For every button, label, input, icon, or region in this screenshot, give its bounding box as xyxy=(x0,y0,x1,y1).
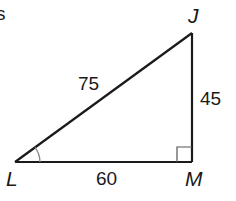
vertex-label-l: L xyxy=(6,168,18,189)
cropped-text-fragment: s xyxy=(0,4,6,23)
vertex-label-j: J xyxy=(188,5,199,26)
side-label-jm: 45 xyxy=(200,89,221,108)
angle-arc-l xyxy=(35,147,40,162)
side-lj xyxy=(15,33,192,162)
triangle-figure: s J L M 75 45 60 xyxy=(0,0,236,201)
vertex-label-m: M xyxy=(185,168,203,189)
side-label-lm: 60 xyxy=(96,169,117,188)
side-label-lj: 75 xyxy=(78,74,99,93)
right-angle-marker xyxy=(177,147,192,162)
